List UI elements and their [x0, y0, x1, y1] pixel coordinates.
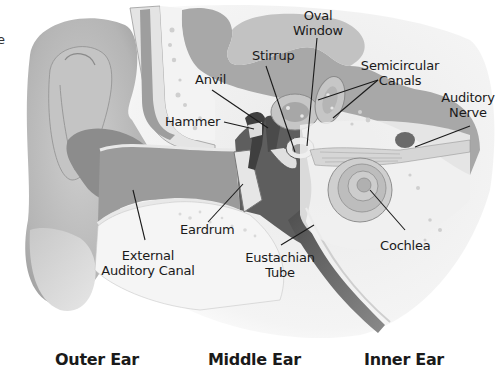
label-semicircular-canals: Semicircular Canals [355, 58, 445, 88]
section-inner-ear: Inner Ear [364, 350, 444, 369]
label-eustachian-tube: Eustachian Tube [243, 250, 317, 280]
label-anvil: Anvil [195, 72, 226, 87]
label-eardrum: Eardrum [180, 222, 234, 237]
label-oval-window-line1: Oval [290, 8, 346, 23]
label-hammer: Hammer [165, 114, 220, 129]
label-external-line2: Auditory Canal [98, 263, 198, 278]
label-stirrup: Stirrup [252, 48, 295, 63]
label-cochlea: Cochlea [380, 238, 431, 253]
ear-anatomy-illustration [0, 0, 499, 370]
label-oval-window-line2: Window [290, 23, 346, 38]
cochlea-shape [328, 158, 392, 222]
label-auditory-nerve-line1: Auditory [438, 90, 498, 105]
label-oval-window: Oval Window [290, 8, 346, 38]
section-outer-ear: Outer Ear [55, 350, 139, 369]
label-eustachian-line1: Eustachian [243, 250, 317, 265]
label-semicircular-line1: Semicircular [355, 58, 445, 73]
section-middle-ear: Middle Ear [208, 350, 301, 369]
label-eustachian-line2: Tube [243, 265, 317, 280]
clipped-edge-text: e [0, 32, 5, 47]
label-auditory-nerve: Auditory Nerve [438, 90, 498, 120]
label-semicircular-line2: Canals [355, 73, 445, 88]
label-external-line1: External [98, 248, 198, 263]
label-auditory-nerve-line2: Nerve [438, 105, 498, 120]
label-external-auditory-canal: External Auditory Canal [98, 248, 198, 278]
